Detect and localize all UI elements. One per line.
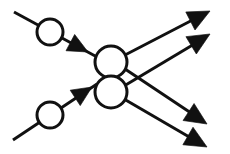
input-edge-upper-marker-circle bbox=[37, 19, 63, 45]
hub-node-upper bbox=[95, 46, 127, 78]
input-edge-lower-arrowhead-icon bbox=[70, 79, 97, 105]
input-edge-upper-arrowhead-icon bbox=[66, 34, 92, 60]
diagram-canvas bbox=[0, 0, 230, 154]
output-edges-group bbox=[124, 13, 206, 145]
output-edge-lower-to-bottomright-arrowhead-icon bbox=[183, 127, 212, 154]
hub-node-lower bbox=[95, 76, 127, 108]
hub-nodes-group bbox=[95, 46, 127, 108]
input-edge-lower-marker-circle bbox=[37, 102, 63, 128]
output-edge-upper-to-bottomright-arrowhead-icon bbox=[183, 104, 212, 133]
diagram-svg bbox=[0, 0, 230, 154]
input-markers-group bbox=[37, 19, 63, 128]
output-edge-lower-to-topright-arrowhead-icon bbox=[186, 25, 215, 54]
output-edge-upper-to-topright-arrowhead-icon bbox=[186, 2, 215, 30]
